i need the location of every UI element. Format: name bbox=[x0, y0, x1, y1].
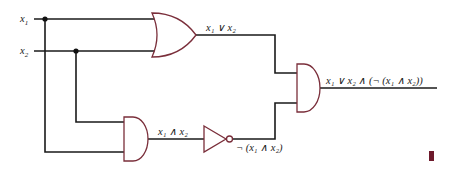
wire-x2-to-and bbox=[76, 51, 124, 122]
not-gate-bubble bbox=[227, 136, 233, 142]
or-output-label: x₁ ∨ x₂ bbox=[205, 22, 236, 33]
or-gate bbox=[152, 13, 196, 57]
logic-circuit-diagram: x1 x2 x₁ ∨ x₂ x₁ ∧ x₂ ¬ (x₁ ∧ x₂) x₁ ∨ x… bbox=[0, 0, 457, 172]
end-marker bbox=[429, 151, 434, 161]
wire-or-to-final-and bbox=[196, 35, 297, 73]
and-output-label: x₁ ∧ x₂ bbox=[157, 126, 188, 137]
input-label-x2: x2 bbox=[19, 45, 29, 59]
not-output-label: ¬ (x₁ ∧ x₂) bbox=[236, 142, 283, 154]
not-gate bbox=[204, 126, 226, 152]
junction-dot-x1 bbox=[42, 16, 47, 21]
wire-not-to-final-and bbox=[233, 103, 297, 139]
final-output-label: x₁ ∨ x₂ ∧ (¬ (x₁ ∧ x₂)) bbox=[325, 75, 423, 87]
input-label-x1: x1 bbox=[19, 13, 28, 27]
and-gate-final bbox=[297, 64, 320, 112]
junction-dot-x2 bbox=[73, 48, 78, 53]
and-gate-lower bbox=[124, 117, 148, 161]
wire-x1-to-and bbox=[45, 19, 124, 152]
